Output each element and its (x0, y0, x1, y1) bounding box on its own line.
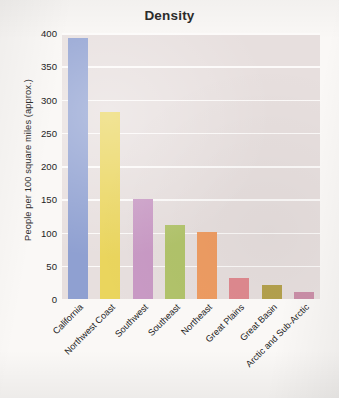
chart-title: Density (0, 8, 339, 23)
y-tick-label: 400 (27, 28, 57, 39)
y-tick-label: 150 (27, 194, 57, 205)
bars-group (62, 33, 320, 299)
x-axis-tick-labels: CaliforniaNorthwest CoastSouthwestSouthe… (62, 299, 320, 398)
bar[interactable] (294, 292, 314, 299)
y-tick-label: 100 (27, 227, 57, 238)
y-tick-label: 350 (27, 61, 57, 72)
bar[interactable] (262, 285, 282, 299)
y-tick-label: 300 (27, 94, 57, 105)
bar[interactable] (229, 278, 249, 299)
y-axis-tick-labels: 050100150200250300350400 (23, 33, 57, 299)
bar[interactable] (100, 112, 120, 299)
y-tick-label: 0 (27, 294, 57, 305)
bar[interactable] (165, 225, 185, 299)
bar[interactable] (133, 199, 153, 299)
plot-area (62, 33, 320, 299)
x-tick-label: Arctic and Sub-Arctic (198, 302, 311, 398)
bar[interactable] (197, 232, 217, 299)
density-bar-chart: Density People per 100 square miles (app… (0, 0, 339, 398)
bar[interactable] (68, 38, 88, 299)
y-tick-label: 50 (27, 260, 57, 271)
y-tick-label: 250 (27, 127, 57, 138)
y-tick-label: 200 (27, 161, 57, 172)
